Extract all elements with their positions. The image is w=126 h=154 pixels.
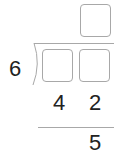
- dividend-box-1[interactable]: [79, 49, 110, 82]
- divisor: 6: [5, 58, 25, 80]
- subtract-digit-1: 2: [85, 92, 105, 114]
- division-bracket-icon: [30, 42, 42, 86]
- division-bar: [34, 43, 114, 44]
- dividend-box-0[interactable]: [42, 49, 73, 82]
- remainder: 5: [85, 132, 105, 154]
- subtraction-line: [38, 127, 114, 128]
- subtract-digit-0: 4: [49, 92, 69, 114]
- quotient-box-0[interactable]: [80, 4, 111, 37]
